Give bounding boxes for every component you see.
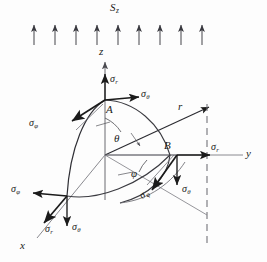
equatorial-arc bbox=[67, 155, 170, 197]
point-B-sigma-r-label: σr bbox=[211, 142, 219, 153]
field-label-Sz-subscript: z bbox=[116, 6, 119, 15]
point-C-sigma-theta-label: σθ bbox=[72, 222, 81, 233]
phi-angle-arc bbox=[139, 160, 147, 172]
field-arrow-group bbox=[34, 25, 202, 45]
point-label-B: B bbox=[164, 140, 171, 151]
angle-label-phi: φ bbox=[131, 168, 137, 179]
axis-label-x: x bbox=[20, 240, 25, 251]
point-A-sigma-r-label: σr bbox=[110, 74, 118, 85]
sphere-outline-arc bbox=[67, 100, 105, 196]
point-B-sigma-theta-label: σθ bbox=[182, 184, 191, 195]
point-label-A: A bbox=[106, 104, 113, 115]
point-A-sigma-phi-label: σφ bbox=[29, 118, 38, 129]
angle-label-theta: θ bbox=[114, 133, 119, 144]
point-C-sigma-phi-label: σφ bbox=[11, 184, 20, 195]
diagram-canvas bbox=[0, 0, 267, 262]
point-C-stress-group bbox=[33, 193, 67, 226]
field-label-Sz: Sz bbox=[110, 2, 119, 14]
meridian-arc bbox=[105, 100, 170, 155]
radius-label-r: r bbox=[178, 101, 182, 112]
point-C-sigma-phi-arrow bbox=[33, 193, 67, 196]
point-C-sigma-r-label: σr bbox=[45, 224, 53, 235]
theta-leader-upper bbox=[96, 122, 110, 126]
point-A-sigma-theta-arrow bbox=[105, 97, 139, 100]
axis-label-y: y bbox=[246, 148, 251, 159]
theta-angle-arc bbox=[105, 118, 121, 132]
axis-label-z: z bbox=[99, 46, 103, 57]
point-A-sigma-phi-companion bbox=[76, 104, 103, 130]
spherical-stress-diagram: Sz z y x r A B θ φ σr σθ σφ σr σθ σφ σφ … bbox=[0, 0, 267, 262]
point-C-sigma-r-arrow bbox=[44, 196, 67, 223]
point-B-stress-group bbox=[147, 155, 210, 190]
point-A-sigma-theta-label: σθ bbox=[141, 89, 150, 100]
